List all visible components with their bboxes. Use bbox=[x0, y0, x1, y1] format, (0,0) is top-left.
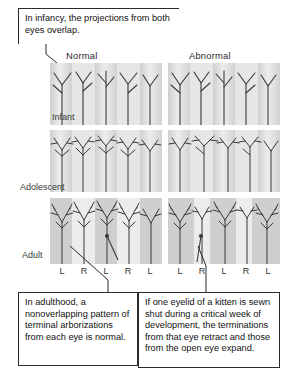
axis-tick-L3-abnormal: L bbox=[263, 266, 273, 276]
column-header-abnormal: Abnormal bbox=[189, 50, 231, 61]
row-label-infant: Infant bbox=[52, 112, 75, 122]
row-label-adult: Adult bbox=[22, 250, 43, 260]
axis-tick-L2-abnormal: L bbox=[219, 266, 229, 276]
callout-adulthood: In adulthood, a nonoverlapping pattern o… bbox=[18, 292, 138, 366]
axis-tick-L3: L bbox=[145, 266, 155, 276]
callout-infancy: In infancy, the projections from both ey… bbox=[18, 8, 178, 44]
axis-tick-R2-abnormal: R bbox=[241, 266, 251, 276]
callout-kitten-eyelid: If one eyelid of a kitten is sewn shut d… bbox=[138, 292, 280, 368]
axis-tick-R2: R bbox=[123, 266, 133, 276]
column-header-normal: Normal bbox=[66, 50, 97, 61]
leader-line-kitten bbox=[176, 246, 216, 294]
leader-line-adulthood bbox=[60, 246, 110, 294]
figure-canvas: In infancy, the projections from both ey… bbox=[0, 0, 283, 371]
panel-infant-abnormal bbox=[168, 63, 280, 125]
panel-adolescent-abnormal bbox=[168, 130, 280, 192]
panel-adolescent-normal bbox=[50, 130, 162, 192]
row-label-adolescent: Adolescent bbox=[20, 182, 65, 192]
